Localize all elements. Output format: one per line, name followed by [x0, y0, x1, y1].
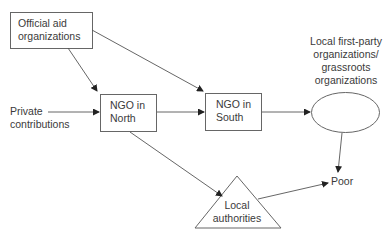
authorities-line-1: Local — [207, 199, 267, 212]
official-aid-line-1: Official aid — [18, 17, 80, 30]
private-line-1: Private — [10, 105, 70, 118]
ngo-south-line-1: NGO in — [216, 98, 251, 111]
edge-north-to-authorities — [130, 132, 222, 196]
ngo-north-line-2: North — [110, 112, 145, 125]
ngo-north-label: NGO in North — [110, 99, 145, 125]
authorities-line-2: authorities — [207, 212, 267, 225]
ngo-north-line-1: NGO in — [110, 99, 145, 112]
grassroots-line-2: organizations/ — [296, 48, 389, 61]
official-aid-label: Official aid organizations — [18, 17, 80, 43]
poor-label: Poor — [331, 175, 353, 188]
grassroots-line-3: grassroots — [296, 61, 389, 74]
edge-official-to-south — [92, 30, 203, 91]
edge-authorities-to-poor — [258, 183, 328, 199]
local-authorities-label: Local authorities — [207, 199, 267, 225]
grassroots-ellipse — [312, 93, 380, 133]
grassroots-line-1: Local first-party — [296, 35, 389, 48]
grassroots-line-4: organizations — [296, 74, 389, 87]
grassroots-label: Local first-party organizations/ grassro… — [296, 35, 389, 87]
poor-line-1: Poor — [331, 175, 353, 188]
edge-official-to-north — [68, 48, 97, 91]
private-contributions-label: Private contributions — [10, 105, 70, 131]
official-aid-line-2: organizations — [18, 30, 80, 43]
private-line-2: contributions — [10, 118, 70, 131]
ngo-south-line-2: South — [216, 111, 251, 124]
edge-grassroots-to-poor — [338, 133, 342, 172]
ngo-south-label: NGO in South — [216, 98, 251, 124]
